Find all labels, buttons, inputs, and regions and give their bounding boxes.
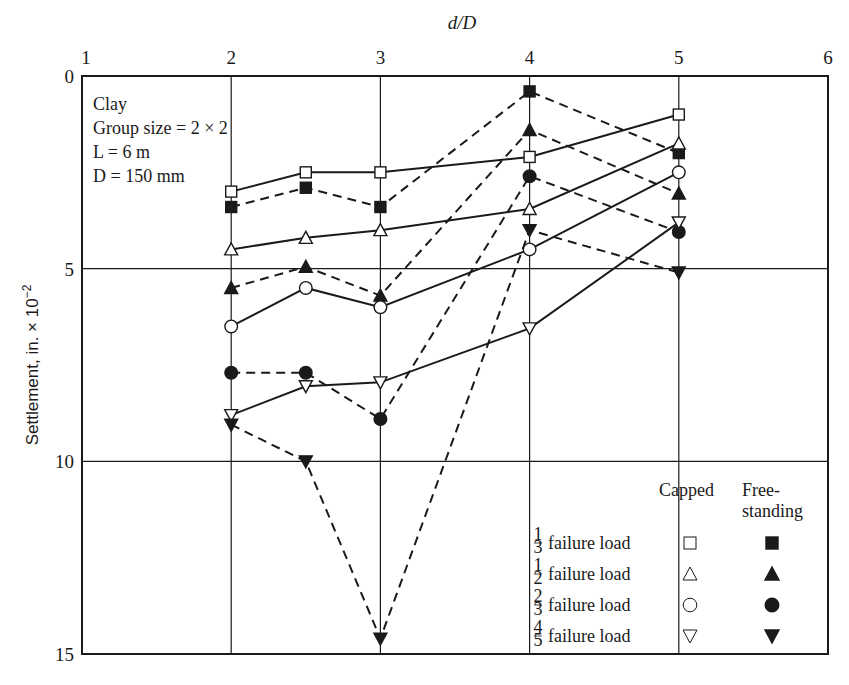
series-line: [231, 176, 679, 419]
filled-triangle-up-marker-icon: [374, 289, 387, 301]
open-square-marker-icon: [300, 167, 311, 178]
open-triangle-down-marker-icon: [683, 630, 697, 643]
filled-circle-marker-icon: [300, 366, 313, 379]
legend-fraction-denominator: 3: [534, 599, 543, 619]
series-path: [231, 91, 679, 207]
filled-circle-marker-icon: [225, 366, 238, 379]
settlement-chart: 123456 051015 d/D Settlement, in. × 10−2…: [0, 0, 849, 685]
legend-label: failure load: [548, 595, 630, 615]
legend-fraction-denominator: 2: [534, 568, 543, 588]
x-tick-label: 2: [226, 47, 236, 68]
series-line: [231, 91, 679, 207]
y-tick-label: 10: [55, 451, 74, 472]
open-circle-marker-icon: [225, 320, 238, 333]
legend-row: 12failure load: [534, 555, 780, 588]
annotation-soil: Clay: [93, 94, 127, 114]
data-series: [225, 86, 686, 645]
series-line: [231, 222, 679, 415]
filled-triangle-down-marker-icon: [672, 267, 685, 279]
open-circle-marker-icon: [300, 282, 313, 295]
y-tick-label: 5: [65, 259, 75, 280]
open-triangle-up-marker-icon: [523, 202, 536, 214]
legend-header-standing: standing: [742, 501, 803, 521]
filled-square-marker-icon: [524, 86, 535, 97]
series-markers: [226, 109, 685, 197]
series-path: [231, 143, 679, 249]
series-markers: [225, 137, 686, 255]
series-line: [231, 143, 679, 249]
gridlines: [82, 76, 828, 654]
legend-label: failure load: [548, 626, 630, 646]
open-triangle-up-marker-icon: [672, 137, 685, 149]
filled-circle-marker-icon: [374, 413, 387, 426]
x-tick-label: 1: [81, 47, 91, 68]
y-axis-label: Settlement, in. × 10−2: [20, 284, 42, 445]
filled-square-marker-icon: [226, 202, 237, 213]
x-axis-label: d/D: [448, 12, 477, 33]
open-circle-marker-icon: [374, 301, 387, 314]
x-tick-label: 4: [525, 47, 535, 68]
filled-triangle-down-marker-icon: [225, 419, 238, 431]
filled-square-marker-icon: [766, 537, 778, 549]
x-tick-label: 6: [823, 47, 833, 68]
open-triangle-down-marker-icon: [523, 323, 536, 335]
annotation-length: L = 6 m: [93, 142, 150, 162]
series-path: [231, 176, 679, 419]
series-line: [231, 115, 679, 192]
open-circle-marker-icon: [673, 166, 686, 179]
filled-triangle-up-marker-icon: [765, 567, 779, 580]
open-square-marker-icon: [673, 109, 684, 120]
y-tick-label: 0: [65, 66, 75, 87]
x-tick-label: 3: [376, 47, 386, 68]
legend-row: 23failure load: [534, 586, 779, 619]
filled-triangle-down-marker-icon: [523, 225, 536, 237]
series-path: [231, 172, 679, 326]
filled-circle-marker-icon: [765, 598, 779, 612]
filled-square-marker-icon: [375, 202, 386, 213]
legend-row: 13failure load: [534, 524, 779, 557]
filled-triangle-up-marker-icon: [672, 187, 685, 199]
filled-circle-marker-icon: [523, 170, 536, 183]
legend: Capped Free- standing 13failure load12fa…: [534, 480, 804, 650]
annotation-block: Clay Group size = 2 × 2 L = 6 m D = 150 …: [93, 94, 228, 186]
filled-square-marker-icon: [300, 182, 311, 193]
open-circle-marker-icon: [523, 243, 536, 256]
legend-header-capped: Capped: [659, 480, 714, 500]
filled-triangle-down-marker-icon: [374, 633, 387, 645]
filled-triangle-up-marker-icon: [299, 260, 312, 272]
x-tick-label: 5: [674, 47, 684, 68]
legend-row: 45failure load: [534, 617, 780, 650]
series-line: [231, 172, 679, 326]
series-path: [231, 222, 679, 415]
y-axis-ticks: 051015: [55, 66, 74, 665]
annotation-diameter: D = 150 mm: [93, 166, 185, 186]
svg-text:Settlement, in. × 10−2: Settlement, in. × 10−2: [20, 284, 42, 445]
annotation-group-size: Group size = 2 × 2: [93, 118, 228, 138]
series-path: [231, 115, 679, 192]
filled-triangle-down-marker-icon: [765, 630, 779, 643]
legend-fraction-denominator: 3: [534, 537, 543, 557]
x-axis-ticks: 123456: [81, 47, 833, 68]
legend-label: failure load: [548, 564, 630, 584]
open-square-marker-icon: [684, 537, 696, 549]
y-tick-label: 15: [55, 644, 74, 665]
legend-label: failure load: [548, 533, 630, 553]
open-square-marker-icon: [375, 167, 386, 178]
open-circle-marker-icon: [683, 598, 697, 612]
legend-fraction-denominator: 5: [534, 630, 543, 650]
filled-triangle-up-marker-icon: [523, 123, 536, 135]
open-square-marker-icon: [524, 151, 535, 162]
open-square-marker-icon: [226, 186, 237, 197]
legend-header-free: Free-: [742, 480, 780, 500]
plot-frame: [82, 76, 828, 654]
open-triangle-up-marker-icon: [683, 567, 697, 580]
